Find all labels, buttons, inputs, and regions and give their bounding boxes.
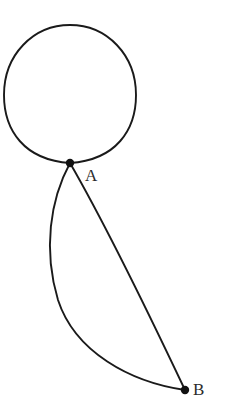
vertex-dot-a bbox=[66, 159, 74, 167]
graph-diagram bbox=[0, 0, 230, 412]
edge-A-to-B-right-arc bbox=[70, 163, 185, 390]
edge-A-to-B-left-arc bbox=[50, 163, 185, 390]
vertex-label-a: A bbox=[85, 167, 97, 184]
vertex-dot-b bbox=[181, 386, 189, 394]
self-loop-at-A-edge bbox=[4, 25, 136, 163]
figure-canvas: A B bbox=[0, 0, 230, 412]
vertex-label-b: B bbox=[193, 381, 204, 398]
